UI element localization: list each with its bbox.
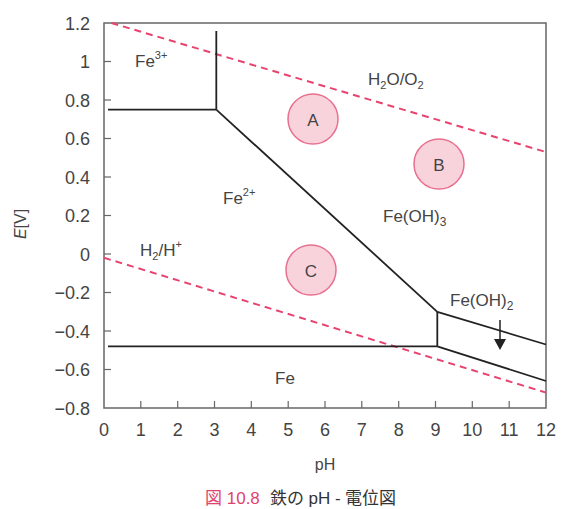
x-tick-label: 5 — [283, 420, 293, 440]
x-axis-title: pH — [315, 456, 335, 473]
x-tick-label: 3 — [209, 420, 219, 440]
x-tick-label: 7 — [357, 420, 367, 440]
x-tick-label: 2 — [173, 420, 183, 440]
x-tick-label: 11 — [500, 420, 519, 440]
y-axis-title: E[V] — [12, 209, 29, 239]
y-tick-label: 0.4 — [65, 168, 90, 188]
label-fe3: Fe3+ — [135, 49, 167, 71]
y-tick-label: 1.2 — [65, 14, 90, 34]
svg-text:A: A — [307, 111, 319, 130]
label-fe: Fe — [275, 369, 295, 388]
y-tick-label: −0.8 — [54, 399, 90, 419]
label-fe2: Fe2+ — [223, 186, 255, 208]
arrow-down-icon — [494, 320, 506, 350]
x-tick-label: 0 — [99, 420, 109, 440]
figure-title: 鉄の pH - 電位図 — [270, 489, 397, 508]
label-feoh2: Fe(OH)2 — [450, 291, 514, 313]
figure-number: 図 10.8 — [205, 489, 260, 508]
y-tick-label: 0.2 — [65, 206, 90, 226]
marker-c: C — [286, 245, 336, 295]
y-tick-label: 1 — [80, 52, 90, 72]
svg-text:B: B — [433, 156, 444, 175]
x-tick-label: 8 — [394, 420, 404, 440]
x-tick-label: 6 — [320, 420, 330, 440]
label-feoh3: Fe(OH)3 — [383, 207, 447, 229]
svg-text:C: C — [305, 262, 317, 281]
feoh3-feoh2-boundary — [437, 312, 546, 345]
y-tick-label: −0.6 — [54, 360, 90, 380]
y-tick-label: 0 — [80, 245, 90, 265]
y-tick-label: 0.6 — [65, 129, 90, 149]
y-tick-label: −0.4 — [54, 322, 90, 342]
x-axis: 0 1 2 3 4 5 6 7 8 9 10 11 12 pH — [99, 401, 556, 473]
y-tick-label: −0.2 — [54, 283, 90, 303]
x-tick-label: 1 — [136, 420, 146, 440]
x-tick-label: 9 — [430, 420, 440, 440]
plot-frame — [104, 23, 546, 408]
y-tick-label: 0.8 — [65, 91, 90, 111]
figure-caption: 図 10.8鉄の pH - 電位図 — [205, 484, 396, 509]
marker-b: B — [414, 139, 464, 189]
x-tick-label: 12 — [536, 420, 556, 440]
label-h2o-o2: H2O/O2 — [368, 70, 424, 91]
x-tick-label: 4 — [246, 420, 256, 440]
label-h2-h: H2/H+ — [140, 238, 182, 262]
x-tick-label: 10 — [462, 420, 482, 440]
marker-a: A — [288, 94, 338, 144]
y-axis: 1.2 1 0.8 0.6 0.4 0.2 0 −0.2 −0.4 −0.6 −… — [12, 14, 111, 419]
